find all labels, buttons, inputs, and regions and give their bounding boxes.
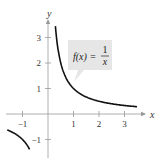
svg-text:1: 1 <box>103 44 108 55</box>
x-tick-label: 1 <box>71 119 76 129</box>
function-graph: xy −1123−1123 f(x) =1x <box>0 0 163 158</box>
y-tick-label: 1 <box>37 84 42 94</box>
axes: xy <box>6 8 155 158</box>
x-tick-label: −1 <box>18 119 28 129</box>
function-label: f(x) =1x <box>68 40 112 82</box>
svg-text:f(x) =: f(x) = <box>73 51 96 63</box>
y-tick-label: −1 <box>31 135 41 145</box>
y-tick-label: 2 <box>37 58 42 68</box>
x-tick-label: 3 <box>122 119 127 129</box>
svg-text:x: x <box>102 56 108 67</box>
curve-negative-branch <box>7 130 29 150</box>
x-tick-label: 2 <box>97 119 102 129</box>
y-tick-label: 3 <box>37 33 42 43</box>
x-axis-label: x <box>149 109 155 120</box>
y-axis-label: y <box>46 8 52 19</box>
